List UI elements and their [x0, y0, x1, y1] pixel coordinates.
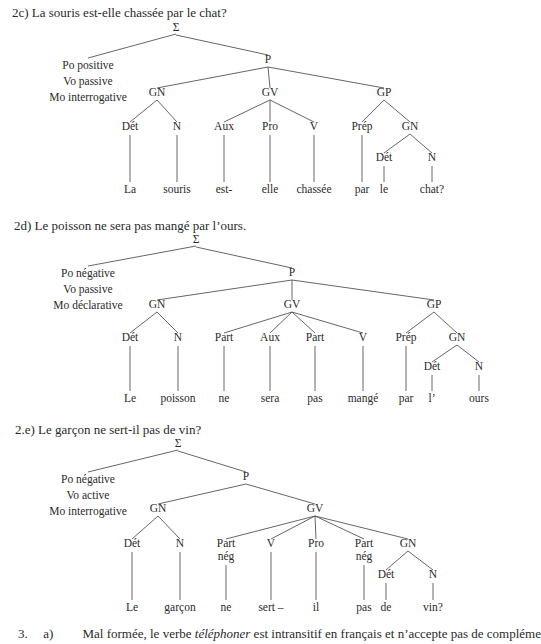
- tree-word: sert –: [258, 601, 283, 613]
- tree-edge: [130, 100, 157, 122]
- tree-edge: [224, 100, 270, 122]
- tree-node-gv: GV: [307, 502, 324, 514]
- tree-node-part2: Part: [306, 331, 325, 343]
- tree-word: poisson: [160, 392, 195, 405]
- tree-edge: [362, 100, 384, 122]
- tree-word: le: [380, 183, 388, 195]
- syntax-tree: Po négativeVo activeMo interrogativeΣPGN…: [49, 437, 443, 614]
- tree-node-v: V: [267, 537, 276, 549]
- tree-edge: [196, 247, 292, 268]
- tree-node-s: Σ: [173, 21, 180, 33]
- tree-edge: [268, 67, 384, 88]
- tree-edge: [315, 516, 364, 539]
- tree-word: par: [355, 183, 370, 196]
- tree-node-det1: Dét: [124, 537, 141, 549]
- tree-node-prep: Prép: [395, 331, 416, 344]
- tree-node-gp: GP: [377, 86, 392, 98]
- tree-node-aux: Aux: [260, 331, 280, 343]
- tree-edge: [158, 484, 246, 504]
- tree-edge: [178, 451, 246, 472]
- tree-word: Le: [126, 601, 138, 613]
- tree-word: vin?: [423, 601, 443, 613]
- tree-edge: [270, 100, 314, 122]
- tree-node-p: P: [243, 470, 249, 482]
- tree-word: mangé: [348, 392, 379, 405]
- tree-word: ne: [219, 392, 230, 404]
- tree-node-pro: Pro: [262, 120, 278, 132]
- tree-node-s: Σ: [175, 437, 182, 449]
- tree-word: ne: [221, 601, 232, 613]
- modality-label: Vo passive: [63, 75, 112, 88]
- tree-node-det1: Dét: [122, 331, 139, 343]
- tree-edge: [158, 516, 180, 539]
- tree-edge: [384, 100, 410, 122]
- tree-word: par: [399, 392, 414, 405]
- exercise-number: 3.: [18, 626, 40, 642]
- tree-edge: [315, 516, 316, 539]
- tree-node-gn2: GN: [449, 331, 466, 343]
- tree-node-v: V: [310, 120, 319, 132]
- tree-node-det2: Dét: [378, 568, 395, 580]
- tree-node-det1: Dét: [122, 120, 139, 132]
- tree-node-det2: Dét: [376, 151, 393, 163]
- tree-word: Le: [124, 392, 136, 404]
- tree-node-gv: GV: [262, 86, 279, 98]
- tree-edge: [157, 312, 178, 333]
- modality-label: Po positive: [62, 59, 113, 72]
- exercise-3a-text: 3. a) Mal formée, le verbe téléphoner es…: [18, 626, 541, 642]
- syntax-tree: Po positiveVo passiveMo interrogativeΣPG…: [49, 21, 444, 196]
- tree-edge: [271, 516, 315, 539]
- tree-edge: [292, 312, 363, 333]
- tree-edge: [176, 35, 268, 55]
- tree-edge: [88, 450, 178, 472]
- tree-node-p: P: [289, 266, 295, 278]
- tree-node-gn2: GN: [402, 120, 419, 132]
- syntax-tree: Po négativeVo passiveMo déclarativeΣPGNG…: [53, 233, 489, 405]
- tree-edge: [246, 484, 315, 504]
- tree-word: est-: [216, 183, 233, 195]
- tree-node-n1: N: [174, 331, 183, 343]
- tree-word: chassée: [296, 183, 331, 195]
- tree-word: ours: [469, 392, 489, 404]
- tree-node-det2: Dét: [424, 360, 441, 372]
- tree-node-n2: N: [475, 360, 484, 372]
- tree-word: pas: [307, 392, 323, 405]
- modality-label: Vo active: [67, 489, 110, 501]
- tree-edge: [132, 516, 158, 539]
- tree-node-part1: Part: [217, 537, 236, 549]
- tree-edge: [226, 516, 315, 539]
- exercise-subpart: a): [43, 626, 79, 642]
- tree-edge: [157, 100, 177, 122]
- tree-edge: [157, 280, 292, 300]
- modality-label: Mo déclarative: [53, 299, 122, 311]
- tree-edge: [315, 516, 408, 539]
- tree-node-gn: GN: [149, 86, 166, 98]
- tree-node-gn2: GN: [400, 537, 417, 549]
- modality-label: Vo passive: [63, 283, 112, 296]
- footer-italic-term: téléphoner: [195, 626, 251, 641]
- tree-word: elle: [262, 183, 279, 195]
- tree-node-n1: N: [173, 120, 182, 132]
- tree-edge: [88, 246, 196, 266]
- modality-label: Mo interrogative: [49, 91, 127, 104]
- tree-edge: [406, 312, 434, 333]
- tree-word: l’: [428, 392, 435, 404]
- tree-node-gv: GV: [284, 298, 301, 310]
- tree-word: pas: [356, 601, 372, 614]
- tree-word: chat?: [420, 183, 444, 195]
- tree-node-pro: Pro: [308, 537, 324, 549]
- tree-node-part1: Part: [215, 331, 234, 343]
- tree-node-gn: GN: [149, 298, 166, 310]
- tree-node-n2: N: [429, 568, 438, 580]
- tree-node-n1: N: [176, 537, 185, 549]
- tree-edge: [130, 312, 157, 333]
- footer-text-before: Mal formée, le verbe: [83, 626, 195, 641]
- footer-text-after: est intransitif en français et n’accepte…: [250, 626, 541, 641]
- tree-node-s: Σ: [193, 233, 200, 245]
- tree-node-v: V: [359, 331, 368, 343]
- tree-node-part1: nég: [218, 550, 235, 563]
- tree-edge: [268, 67, 270, 88]
- tree-word: garçon: [164, 601, 196, 614]
- tree-edge: [88, 34, 176, 58]
